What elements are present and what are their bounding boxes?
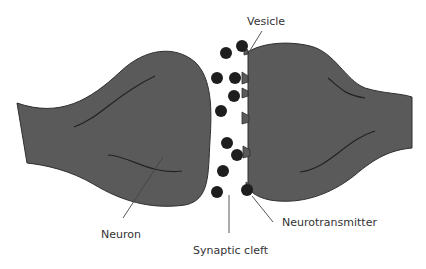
neurotransmitter-label: Neurotransmitter bbox=[282, 217, 377, 228]
right-neuron bbox=[248, 43, 412, 201]
neuron-label: Neuron bbox=[101, 229, 141, 240]
synaptic-cleft-label: Synaptic cleft bbox=[193, 245, 268, 256]
left-neuron bbox=[17, 51, 211, 206]
vesicle-label: Vesicle bbox=[247, 16, 285, 27]
